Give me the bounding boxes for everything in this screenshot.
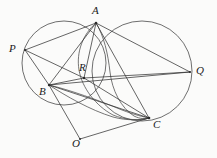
label-C: C: [153, 119, 160, 130]
segment-B-R: [49, 78, 84, 85]
vertex-A: [95, 22, 98, 25]
segment-A-Q: [96, 23, 190, 72]
label-P: P: [9, 43, 16, 54]
segment-O-C: [80, 118, 149, 139]
vertex-R: [83, 77, 85, 79]
segment-B-C: [49, 85, 149, 118]
segment-P-R: [25, 50, 84, 78]
segment-B-O: [49, 85, 80, 139]
vertex-B: [48, 84, 50, 86]
label-O: O: [72, 138, 80, 149]
label-B: B: [39, 86, 46, 97]
vertex-Q: [189, 71, 191, 73]
segment-B-Q: [49, 72, 190, 85]
inner-arc-A-R-C: [78, 23, 149, 120]
segment-R-C: [84, 78, 149, 118]
segment-P-B: [25, 50, 49, 85]
label-Q: Q: [196, 65, 204, 76]
label-R: R: [79, 62, 86, 73]
vertex-C: [148, 117, 151, 120]
label-A: A: [92, 5, 99, 16]
geometry-figure: A P Q R B C O: [0, 0, 217, 158]
vertex-P: [24, 49, 26, 51]
geometry-canvas: [0, 0, 217, 158]
